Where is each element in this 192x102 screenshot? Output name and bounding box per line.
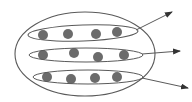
dot-1-1 — [38, 30, 48, 40]
dot-1-4 — [112, 27, 122, 37]
group-3 — [33, 70, 188, 88]
dot-1-2 — [63, 29, 73, 39]
dot-3-4 — [112, 72, 122, 82]
dot-3-1 — [42, 72, 52, 82]
dot-2-3 — [93, 52, 103, 62]
dot-3-2 — [66, 74, 76, 84]
dot-2-2 — [69, 48, 79, 58]
group-2 — [29, 48, 180, 62]
grouped-clusters-diagram — [0, 0, 192, 102]
dot-3-3 — [90, 73, 100, 83]
dot-2-1 — [38, 50, 48, 60]
arrow-2 — [142, 51, 180, 54]
dot-2-4 — [119, 50, 129, 60]
arrow-1 — [136, 12, 172, 30]
inner-groups — [28, 12, 188, 88]
arrow-3 — [142, 78, 188, 88]
dot-1-3 — [91, 29, 101, 39]
